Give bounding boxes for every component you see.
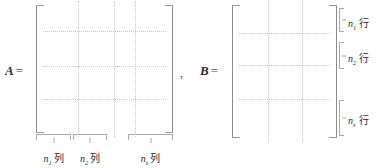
matrix-a-vline-3 bbox=[135, 1, 136, 137]
unit-row: 行 bbox=[357, 115, 369, 126]
brace-tick bbox=[53, 138, 54, 143]
matrix-b-name: B bbox=[200, 63, 209, 78]
brace-tick bbox=[150, 138, 151, 143]
subscript: 1 bbox=[48, 159, 52, 166]
matrix-a-right-bracket bbox=[165, 5, 173, 133]
matrix-b-row-label-3: ns行 bbox=[348, 112, 369, 128]
brace-tick bbox=[342, 118, 346, 119]
matrix-a-vline-2 bbox=[114, 1, 115, 137]
matrix-a-column-brace-1 bbox=[36, 134, 71, 143]
matrix-b-label: B= bbox=[200, 64, 218, 77]
unit-column: 列 bbox=[89, 153, 100, 164]
matrix-b-row-brace-3 bbox=[339, 100, 346, 136]
matrix-a-column-label-1: n1列 bbox=[36, 150, 71, 166]
matrix-b-hline-3 bbox=[239, 99, 330, 100]
matrix-a-label: A= bbox=[5, 64, 23, 77]
matrix-b-row-brace-2 bbox=[339, 42, 346, 69]
matrix-a-body bbox=[36, 5, 173, 133]
symbol-n: n bbox=[141, 153, 146, 164]
unit-row: 行 bbox=[357, 18, 369, 29]
unit-row: 行 bbox=[357, 53, 369, 64]
subscript: s bbox=[353, 121, 357, 128]
brace-tick bbox=[342, 55, 346, 56]
matrix-b-hline-2 bbox=[239, 65, 330, 66]
matrix-b-hline-1 bbox=[239, 33, 330, 34]
unit-column: 列 bbox=[53, 153, 64, 164]
matrix-a-column-label-3: ns列 bbox=[128, 150, 173, 166]
matrix-a-hline-1 bbox=[43, 31, 166, 32]
matrix-a-column-brace-3 bbox=[128, 134, 173, 143]
matrix-b-right-bracket bbox=[329, 5, 337, 138]
brace-tick bbox=[90, 138, 91, 143]
brace-tick bbox=[342, 20, 346, 21]
matrix-b-row-brace-1 bbox=[339, 8, 346, 32]
matrix-a-column-label-2: n2列 bbox=[73, 150, 107, 166]
matrix-b-partition-grid bbox=[239, 5, 330, 138]
matrix-a-name: A bbox=[5, 63, 14, 78]
matrix-b-equals: = bbox=[209, 63, 218, 78]
figure-canvas: A= n1列 n2列 ns列 , B= bbox=[0, 0, 388, 168]
matrix-b-vline-2 bbox=[302, 1, 303, 142]
matrix-a-column-brace-2 bbox=[73, 134, 107, 143]
matrix-b-row-label-1: n1行 bbox=[348, 15, 369, 31]
matrix-a-hline-2 bbox=[43, 66, 166, 67]
matrix-a-partition-grid bbox=[43, 5, 166, 133]
matrix-b-vline-1 bbox=[268, 1, 269, 142]
matrix-a-vline-1 bbox=[78, 1, 79, 137]
matrix-a-equals: = bbox=[14, 63, 23, 78]
matrix-b-row-label-2: n2行 bbox=[348, 50, 369, 66]
separator-comma: , bbox=[180, 67, 183, 79]
matrix-b-body bbox=[232, 5, 337, 138]
matrix-a-hline-3 bbox=[43, 99, 166, 100]
unit-column: 列 bbox=[149, 153, 160, 164]
